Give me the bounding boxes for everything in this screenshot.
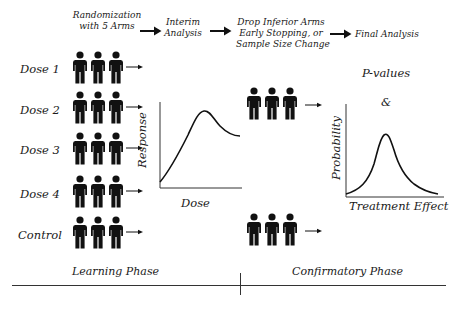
arm-label-control: Control (18, 228, 62, 242)
step-final-analysis: Final Analysis (355, 29, 419, 40)
arm-label-dose-4: Dose 4 (20, 187, 60, 201)
person-icon (108, 91, 124, 124)
selected-dose-group (246, 87, 298, 120)
step-label: Drop Inferior Arms (236, 17, 326, 28)
arrow-right-icon (330, 29, 352, 39)
arrow-right-icon (126, 64, 144, 70)
step-randomization: Randomization with 5 Arms (62, 10, 152, 32)
arm-label-dose-3: Dose 3 (20, 143, 60, 157)
person-icon (282, 213, 298, 246)
dose-axis-label: Dose (181, 196, 210, 210)
arrow-right-icon (305, 228, 323, 234)
person-icon (90, 132, 106, 165)
dose-response-chart (148, 100, 243, 195)
person-icon (72, 91, 88, 124)
person-icon (264, 213, 280, 246)
person-icon (90, 175, 106, 208)
person-icon (72, 216, 88, 249)
step-label: Sample Size Change (236, 39, 326, 50)
arm-label-dose-2: Dose 2 (20, 103, 60, 117)
step-label: Interim (163, 17, 203, 28)
probability-axis-label: Probability (329, 116, 343, 180)
arrow-right-icon (140, 26, 162, 36)
arm-group-control (72, 216, 124, 249)
timeline-divider (12, 285, 446, 286)
person-icon (246, 87, 262, 120)
step-label: Final Analysis (355, 29, 419, 40)
step-label: Early Stopping, or (236, 28, 326, 39)
arm-group-dose-3 (72, 132, 124, 165)
person-icon (108, 216, 124, 249)
arm-group-dose-1 (72, 51, 124, 84)
arm-group-dose-2 (72, 91, 124, 124)
person-icon (108, 51, 124, 84)
person-icon (108, 132, 124, 165)
confirmatory-phase-label: Confirmatory Phase (292, 265, 403, 278)
arm-group-dose-4 (72, 175, 124, 208)
response-axis-label: Response (135, 112, 149, 168)
arrow-right-icon (210, 26, 232, 36)
person-icon (72, 175, 88, 208)
person-icon (282, 87, 298, 120)
person-icon (264, 87, 280, 120)
step-label: with 5 Arms (62, 21, 152, 32)
arrow-right-icon (126, 104, 144, 110)
arrow-right-icon (305, 102, 323, 108)
person-icon (72, 51, 88, 84)
treatment-effect-axis-label: Treatment Effect (349, 199, 448, 213)
person-icon (246, 213, 262, 246)
arrow-right-icon (126, 188, 144, 194)
learning-phase-label: Learning Phase (72, 265, 159, 278)
arrow-right-icon (126, 229, 144, 235)
step-label: Analysis (163, 28, 203, 39)
pvalues-label: P-values (362, 66, 410, 80)
person-icon (108, 175, 124, 208)
person-icon (72, 132, 88, 165)
person-icon (90, 51, 106, 84)
phase-separator-tick (240, 273, 241, 295)
step-adaptation: Drop Inferior Arms Early Stopping, or Sa… (236, 17, 326, 50)
step-label: Randomization (62, 10, 152, 21)
probability-chart (340, 102, 445, 202)
person-icon (90, 91, 106, 124)
step-interim: Interim Analysis (163, 17, 203, 39)
control-group-confirmatory (246, 213, 298, 246)
arm-label-dose-1: Dose 1 (20, 62, 60, 76)
person-icon (90, 216, 106, 249)
